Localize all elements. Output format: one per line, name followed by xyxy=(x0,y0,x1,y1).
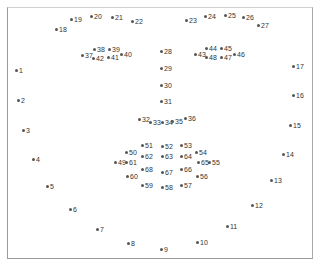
landmark-point: 14 xyxy=(282,151,294,159)
point-marker-icon xyxy=(131,20,134,23)
landmark-point: 20 xyxy=(90,13,102,21)
landmark-point: 39 xyxy=(108,46,120,54)
landmark-label: 35 xyxy=(175,118,183,125)
landmark-point: 26 xyxy=(242,14,254,22)
landmark-point: 50 xyxy=(125,149,137,157)
point-marker-icon xyxy=(196,175,199,178)
point-marker-icon xyxy=(180,155,183,158)
landmark-label: 18 xyxy=(59,26,67,33)
landmark-label: 60 xyxy=(130,173,138,180)
point-marker-icon xyxy=(226,225,229,228)
landmark-point: 65 xyxy=(197,159,209,167)
point-marker-icon xyxy=(160,50,163,53)
point-marker-icon xyxy=(289,124,292,127)
landmark-point: 13 xyxy=(270,177,282,185)
landmark-label: 54 xyxy=(199,149,207,156)
landmark-label: 66 xyxy=(184,166,192,173)
landmark-label: 67 xyxy=(165,169,173,176)
landmark-point: 19 xyxy=(70,16,82,24)
landmark-label: 31 xyxy=(164,98,172,105)
landmark-label: 4 xyxy=(36,156,40,163)
landmark-label: 14 xyxy=(286,151,294,158)
point-marker-icon xyxy=(141,144,144,147)
point-marker-icon xyxy=(141,155,144,158)
landmark-point: 24 xyxy=(204,13,216,21)
point-marker-icon xyxy=(69,208,72,211)
landmark-label: 10 xyxy=(200,239,208,246)
point-marker-icon xyxy=(32,158,35,161)
landmark-point: 45 xyxy=(220,45,232,53)
landmark-label: 39 xyxy=(112,46,120,53)
landmark-label: 3 xyxy=(26,127,30,134)
landmark-label: 20 xyxy=(94,13,102,20)
point-marker-icon xyxy=(161,171,164,174)
point-marker-icon xyxy=(22,129,25,132)
landmark-label: 42 xyxy=(96,55,104,62)
landmark-label: 63 xyxy=(165,153,173,160)
point-marker-icon xyxy=(195,151,198,154)
point-marker-icon xyxy=(185,19,188,22)
point-marker-icon xyxy=(242,16,245,19)
landmark-point: 4 xyxy=(32,156,40,164)
landmark-label: 2 xyxy=(21,97,25,104)
landmark-label: 1 xyxy=(19,67,23,74)
landmark-point: 68 xyxy=(141,166,153,174)
point-marker-icon xyxy=(81,54,84,57)
point-marker-icon xyxy=(184,117,187,120)
landmark-point: 29 xyxy=(160,65,172,73)
point-marker-icon xyxy=(93,48,96,51)
landmark-label: 40 xyxy=(124,51,132,58)
landmark-point: 2 xyxy=(17,97,25,105)
landmark-point: 9 xyxy=(160,246,168,254)
point-marker-icon xyxy=(141,168,144,171)
landmark-point: 64 xyxy=(180,153,192,161)
landmark-label: 5 xyxy=(50,183,54,190)
point-marker-icon xyxy=(233,53,236,56)
landmark-point: 10 xyxy=(196,239,208,247)
landmark-label: 59 xyxy=(145,182,153,189)
landmark-label: 26 xyxy=(246,14,254,21)
point-marker-icon xyxy=(180,168,183,171)
point-marker-icon xyxy=(17,99,20,102)
point-marker-icon xyxy=(90,15,93,18)
landmark-point: 57 xyxy=(180,182,192,190)
landmark-point: 16 xyxy=(292,92,304,100)
landmark-point: 1 xyxy=(15,67,23,75)
landmark-label: 62 xyxy=(145,153,153,160)
point-marker-icon xyxy=(126,175,129,178)
landmark-label: 27 xyxy=(261,22,269,29)
point-marker-icon xyxy=(171,120,174,123)
point-marker-icon xyxy=(161,145,164,148)
landmark-point: 41 xyxy=(107,54,119,62)
point-marker-icon xyxy=(114,161,117,164)
landmark-label: 29 xyxy=(164,65,172,72)
point-marker-icon xyxy=(141,184,144,187)
landmark-point: 56 xyxy=(196,173,208,181)
landmark-label: 9 xyxy=(164,246,168,253)
landmark-label: 52 xyxy=(165,143,173,150)
landmark-label: 16 xyxy=(296,92,304,99)
landmark-label: 12 xyxy=(255,202,263,209)
point-marker-icon xyxy=(92,57,95,60)
landmark-label: 30 xyxy=(164,82,172,89)
landmark-point: 15 xyxy=(289,122,301,130)
landmark-point: 23 xyxy=(185,17,197,25)
landmark-label: 13 xyxy=(274,177,282,184)
landmark-point: 54 xyxy=(195,149,207,157)
point-marker-icon xyxy=(160,248,163,251)
point-marker-icon xyxy=(46,185,49,188)
landmark-label: 56 xyxy=(200,173,208,180)
landmark-label: 41 xyxy=(111,54,119,61)
landmark-label: 58 xyxy=(165,184,173,191)
landmark-point: 21 xyxy=(111,14,123,22)
point-marker-icon xyxy=(180,144,183,147)
point-marker-icon xyxy=(161,121,164,124)
point-marker-icon xyxy=(205,56,208,59)
landmark-point: 33 xyxy=(149,119,161,127)
landmark-label: 38 xyxy=(97,46,105,53)
landmark-point: 8 xyxy=(127,240,135,248)
landmark-point: 53 xyxy=(180,142,192,150)
landmark-point: 11 xyxy=(226,223,237,231)
landmark-label: 11 xyxy=(230,223,237,230)
point-marker-icon xyxy=(111,16,114,19)
